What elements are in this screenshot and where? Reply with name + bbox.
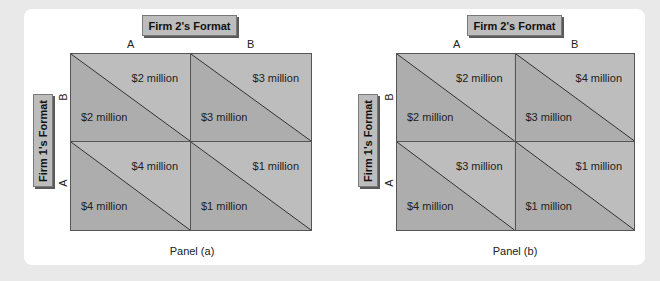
payoff-cell-AB: $1 million $1 million <box>516 142 635 230</box>
payoff-cell-BB: $4 million $3 million <box>516 54 635 142</box>
firm1-payoff: $3 million <box>526 111 572 123</box>
diagonal-split <box>516 54 635 141</box>
payoff-matrix: $2 million $2 million $4 million $3 mill… <box>396 53 635 231</box>
row-label-b: B <box>383 93 395 100</box>
firm1-format-label: Firm 1's Format <box>358 94 378 187</box>
firm2-format-label: Firm 2's Format <box>467 15 562 36</box>
column-label-b: B <box>571 38 578 50</box>
firm2-payoff: $4 million <box>576 72 622 84</box>
payoff-cell-BA: $2 million $2 million <box>397 54 516 142</box>
panel-caption: Panel (b) <box>455 245 575 257</box>
firm2-payoff: $3 million <box>456 160 502 172</box>
firm1-payoff: $1 million <box>526 200 572 212</box>
diagonal-split <box>397 54 515 141</box>
column-label-a: A <box>453 38 460 50</box>
firm1-payoff: $4 million <box>407 200 453 212</box>
row-label-a: A <box>383 179 395 186</box>
panel-b: Firm 2's Format A B Firm 1's Format B A … <box>0 0 660 281</box>
firm2-format-text: Firm 2's Format <box>473 20 555 32</box>
diagonal-split <box>516 142 635 230</box>
firm2-payoff: $1 million <box>576 160 622 172</box>
firm2-payoff: $2 million <box>456 72 502 84</box>
diagonal-split <box>397 142 515 230</box>
payoff-cell-AA: $3 million $4 million <box>397 142 516 230</box>
firm1-format-text: Firm 1's Format <box>362 99 374 181</box>
firm1-payoff: $2 million <box>407 111 453 123</box>
